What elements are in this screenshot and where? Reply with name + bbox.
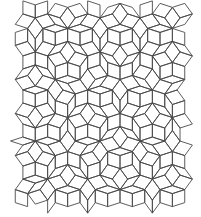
rhombus-edges [11, 1, 193, 213]
rhombus-tiles [11, 1, 193, 213]
penrose-tiling-figure [0, 0, 201, 217]
tiling-svg [0, 0, 201, 217]
